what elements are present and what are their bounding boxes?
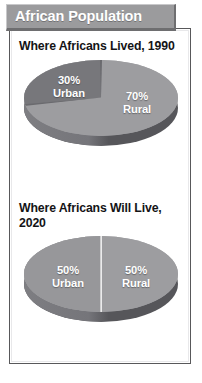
figure-content-panel: Where Africans Lived, 1990 30% Urban xyxy=(9,28,191,364)
pie-2020-rural-name: Rural xyxy=(104,277,168,290)
pie-2020-label-rural: 50% Rural xyxy=(104,264,168,290)
pie-1990-label-urban: 30% Urban xyxy=(38,74,100,100)
african-population-figure: Where Africans Lived, 1990 30% Urban xyxy=(0,0,202,383)
pie-1990-label-rural: 70% Rural xyxy=(106,90,168,116)
pie-2020-urban-name: Urban xyxy=(36,277,100,290)
pie-chart-2020: 50% Urban 50% Rural xyxy=(24,236,178,322)
figure-banner: African Population xyxy=(6,4,176,31)
chart-title-2020: Where Africans Will Live, 2020 xyxy=(19,201,182,230)
pie-1990-rural-name: Rural xyxy=(106,103,168,116)
pie-chart-2020-wrap: 50% Urban 50% Rural xyxy=(10,232,192,336)
pie-chart-1990-wrap: 30% Urban 70% Rural xyxy=(10,56,192,160)
chart-block-1990: Where Africans Lived, 1990 30% Urban xyxy=(10,39,192,160)
chart-title-1990: Where Africans Lived, 1990 xyxy=(19,39,182,54)
pie-chart-1990: 30% Urban 70% Rural xyxy=(24,60,178,146)
chart-block-2020: Where Africans Will Live, 2020 50% Urban xyxy=(10,201,192,336)
pie-2020-rural-percent: 50% xyxy=(104,264,168,277)
pie-2020-label-urban: 50% Urban xyxy=(36,264,100,290)
pie-1990-rural-percent: 70% xyxy=(106,90,168,103)
pie-1990-urban-name: Urban xyxy=(38,87,100,100)
pie-2020-urban-percent: 50% xyxy=(36,264,100,277)
figure-banner-title: African Population xyxy=(15,9,142,24)
pie-1990-urban-percent: 30% xyxy=(38,74,100,87)
